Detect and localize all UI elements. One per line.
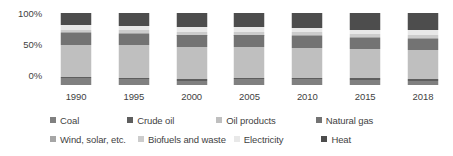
bar-segment	[292, 48, 323, 78]
bar-segment	[292, 79, 323, 85]
bar-segment	[407, 13, 438, 30]
plot-area: 100% 50% 0% 1990199520002005201020152018	[0, 0, 453, 108]
bar-segment	[61, 13, 92, 25]
bar-column	[395, 0, 451, 86]
bar-column	[164, 0, 220, 86]
legend-item[interactable]: Biofuels and waste	[138, 129, 226, 149]
legend-item[interactable]: Crude oil	[127, 110, 174, 130]
bar-segment	[118, 45, 149, 77]
bar-segment	[61, 33, 92, 45]
legend-swatch-icon	[127, 117, 133, 123]
legend-swatch-icon	[316, 117, 322, 123]
legend-label: Natural gas	[326, 115, 373, 126]
bar-segment	[350, 13, 381, 30]
bar-segment	[176, 47, 207, 79]
legend-swatch-icon	[216, 117, 222, 123]
bar-segment	[234, 35, 265, 47]
bar-column	[337, 0, 393, 86]
stacked-bar	[407, 13, 438, 85]
legend-swatch-icon	[321, 136, 327, 142]
y-tick-50: 50%	[23, 40, 42, 50]
bar-column	[48, 0, 104, 86]
bars-container	[48, 0, 451, 86]
legend-swatch-icon	[138, 136, 144, 142]
legend-row-2: Wind, solar, etc.Biofuels and wasteElect…	[0, 129, 453, 149]
bar-segment	[118, 34, 149, 46]
bar-segment	[350, 38, 381, 49]
stacked-bar	[61, 13, 92, 85]
bar-column	[106, 0, 162, 86]
bar-segment	[234, 79, 265, 85]
legend-label: Heat	[331, 134, 351, 145]
legend-label: Coal	[60, 115, 79, 126]
legend-label: Oil products	[226, 115, 276, 126]
bar-segment	[61, 78, 92, 84]
bar-segment	[118, 79, 149, 85]
legend-item[interactable]: Heat	[321, 129, 351, 149]
y-tick-0: 0%	[28, 71, 42, 81]
stacked-bar	[176, 13, 207, 85]
bar-column	[279, 0, 335, 86]
legend-label: Biofuels and waste	[148, 134, 226, 145]
bar-segment	[234, 47, 265, 78]
legend-item[interactable]: Wind, solar, etc.	[50, 129, 126, 149]
stacked-bar-chart: 100% 50% 0% 1990199520002005201020152018…	[0, 0, 453, 156]
x-axis-label: 2015	[337, 88, 393, 106]
legend-label: Crude oil	[137, 115, 174, 126]
chart-legend: CoalCrude oilOil productsNatural gas Win…	[0, 110, 453, 156]
x-axis-label: 2005	[221, 88, 277, 106]
bar-segment	[61, 45, 92, 77]
legend-item[interactable]: Coal	[50, 110, 79, 130]
stacked-bar	[350, 13, 381, 85]
stacked-bar	[118, 13, 149, 85]
x-axis-label: 1995	[106, 88, 162, 106]
legend-row-1: CoalCrude oilOil productsNatural gas	[0, 110, 453, 130]
legend-item[interactable]: Oil products	[216, 110, 276, 130]
bar-segment	[292, 13, 323, 28]
legend-label: Electricity	[244, 134, 284, 145]
x-axis-label: 1990	[48, 88, 104, 106]
legend-item[interactable]: Natural gas	[316, 110, 373, 130]
bar-segment	[350, 80, 381, 85]
legend-swatch-icon	[50, 117, 56, 123]
bar-segment	[118, 13, 149, 26]
x-axis-label: 2010	[279, 88, 335, 106]
bar-column	[221, 0, 277, 86]
stacked-bar	[292, 13, 323, 85]
y-tick-100: 100%	[18, 9, 42, 19]
legend-swatch-icon	[50, 136, 56, 142]
bar-segment	[407, 50, 438, 80]
bar-segment	[176, 13, 207, 27]
bar-segment	[292, 36, 323, 48]
bar-segment	[176, 35, 207, 47]
bar-segment	[350, 49, 381, 79]
bar-segment	[176, 81, 207, 85]
legend-item[interactable]: Electricity	[234, 129, 284, 149]
x-axis: 1990199520002005201020152018	[48, 88, 451, 106]
x-axis-label: 2018	[395, 88, 451, 106]
bar-segment	[407, 39, 438, 50]
legend-label: Wind, solar, etc.	[60, 134, 126, 145]
y-axis: 100% 50% 0%	[0, 0, 46, 86]
legend-swatch-icon	[234, 136, 240, 142]
bar-segment	[234, 13, 265, 27]
stacked-bar	[234, 13, 265, 85]
bar-segment	[407, 81, 438, 85]
x-axis-label: 2000	[164, 88, 220, 106]
